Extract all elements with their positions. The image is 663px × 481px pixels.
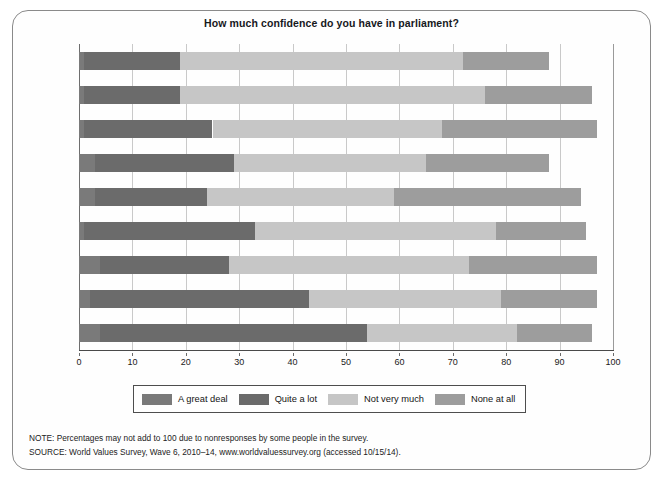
legend-label: A great deal (178, 394, 228, 404)
plot-area (79, 44, 613, 350)
bar-segment (90, 290, 309, 308)
bar-segment (79, 324, 100, 342)
bar-segment (100, 256, 228, 274)
x-tick-label: 30 (234, 357, 244, 367)
bar-segment (95, 154, 234, 172)
bar-segment (213, 120, 443, 138)
bar-segment (84, 52, 180, 70)
legend-item: Not very much (328, 394, 424, 405)
x-tick-mark (453, 353, 454, 356)
bar-segment (234, 154, 426, 172)
bar-segment (255, 222, 495, 240)
x-tick-mark (506, 353, 507, 356)
x-axis-ticks: 0102030405060708090100 (79, 353, 614, 369)
bar-segment (180, 86, 484, 104)
legend-label: Not very much (364, 394, 424, 404)
legend-label: None at all (471, 394, 515, 404)
x-tick-mark (560, 353, 561, 356)
bar-segment (84, 222, 255, 240)
x-tick-mark (239, 353, 240, 356)
chart-legend: A great dealQuite a lotNot very muchNone… (133, 385, 526, 413)
x-tick-label: 20 (181, 357, 191, 367)
bar-segment (394, 188, 581, 206)
bar-row (79, 120, 613, 138)
x-tick-label: 60 (394, 357, 404, 367)
x-tick-mark (399, 353, 400, 356)
bar-row (79, 256, 613, 274)
note-line: NOTE: Percentages may not add to 100 due… (29, 432, 629, 446)
chart-title: How much confidence do you have in parli… (0, 17, 663, 29)
bar-segment (180, 52, 463, 70)
bar-row (79, 52, 613, 70)
x-tick-mark (346, 353, 347, 356)
bar-segment (95, 188, 207, 206)
x-tick-mark (132, 353, 133, 356)
x-axis-line (79, 350, 614, 351)
bar-segment (496, 222, 587, 240)
x-tick-mark (293, 353, 294, 356)
x-tick-label: 100 (605, 357, 620, 367)
bar-row (79, 188, 613, 206)
x-tick-label: 80 (501, 357, 511, 367)
legend-swatch (328, 394, 358, 405)
bar-row (79, 324, 613, 342)
x-tick-label: 10 (127, 357, 137, 367)
figure-notes: NOTE: Percentages may not add to 100 due… (29, 432, 629, 459)
bar-segment (229, 256, 469, 274)
bar-segment (79, 256, 100, 274)
x-tick-mark (613, 353, 614, 356)
bar-segment (309, 290, 501, 308)
bar-segment (367, 324, 517, 342)
legend-swatch (142, 394, 172, 405)
bar-segment (426, 154, 549, 172)
bar-segment (84, 86, 180, 104)
bar-row (79, 154, 613, 172)
bar-segment (84, 120, 212, 138)
bar-segment (517, 324, 592, 342)
legend-item: Quite a lot (239, 394, 317, 405)
bar-row (79, 290, 613, 308)
bar-segment (79, 154, 95, 172)
bar-row (79, 222, 613, 240)
bar-row (79, 86, 613, 104)
x-tick-label: 70 (448, 357, 458, 367)
bar-segment (469, 256, 597, 274)
bar-segment (100, 324, 367, 342)
gridline-100 (613, 44, 614, 350)
bar-segment (463, 52, 548, 70)
bar-segment (442, 120, 597, 138)
bar-segment (501, 290, 597, 308)
x-tick-label: 50 (341, 357, 351, 367)
source-line: SOURCE: World Values Survey, Wave 6, 201… (29, 446, 629, 460)
x-tick-label: 90 (555, 357, 565, 367)
bar-segment (485, 86, 592, 104)
x-tick-label: 40 (288, 357, 298, 367)
legend-item: A great deal (142, 394, 228, 405)
x-tick-mark (186, 353, 187, 356)
legend-label: Quite a lot (275, 394, 317, 404)
legend-swatch (435, 394, 465, 405)
bar-segment (207, 188, 394, 206)
figure-page: How much confidence do you have in parli… (0, 0, 663, 481)
bar-segment (79, 188, 95, 206)
bar-segment (79, 290, 90, 308)
x-tick-label: 0 (76, 357, 81, 367)
legend-item: None at all (435, 394, 515, 405)
legend-swatch (239, 394, 269, 405)
x-tick-mark (79, 353, 80, 356)
